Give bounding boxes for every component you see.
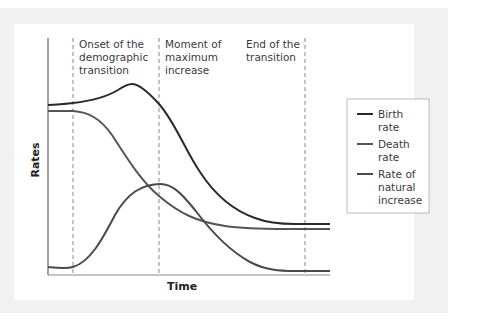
- demographic-transition-chart: Onset of the demographic transition Mome…: [0, 0, 481, 320]
- legend-label-natural-increase: Rate of natural increase: [378, 168, 422, 206]
- x-axis-title: Time: [167, 280, 197, 293]
- legend: Birth rate Death rate Rate of natural in…: [347, 99, 429, 213]
- marker-end-label: End of the transition: [246, 38, 303, 63]
- natural-increase-line: [48, 184, 330, 271]
- death-rate-line: [48, 111, 330, 229]
- marker-onset-label: Onset of the demographic transition: [79, 38, 152, 76]
- marker-max-label: Moment of maximum increase: [165, 38, 225, 76]
- y-axis-title: Rates: [29, 142, 42, 178]
